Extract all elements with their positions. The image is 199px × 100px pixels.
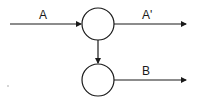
label-a-prime: A'	[142, 9, 152, 21]
flow-diagram	[0, 0, 199, 100]
label-a: A	[39, 9, 47, 21]
label-b: B	[142, 65, 150, 77]
node-top-circle	[82, 8, 114, 40]
artifact-dot	[7, 85, 9, 87]
node-bottom-circle	[82, 64, 114, 96]
